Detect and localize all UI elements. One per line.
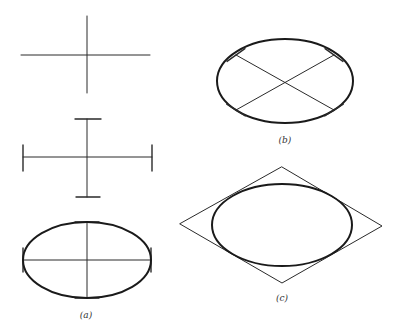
ellipse-construction-figure: (a) (b) (c) [0,0,399,336]
panel-a: (a) [21,16,152,320]
panel-c: (c) [180,167,382,303]
panel-b-label: (b) [279,135,292,145]
panel-b: (b) [217,39,353,145]
panel-a-label: (a) [80,310,93,320]
figure-svg: (a) (b) (c) [0,0,399,336]
step-3-ellipse-on-axes [23,222,151,298]
step-1-axes-cross [21,16,150,93]
tangent-mark [325,49,343,62]
panel-c-label: (c) [276,293,289,303]
step-2-axes-with-end-marks [23,119,152,197]
tangent-mark [227,49,245,62]
inscribed-ellipse [212,184,352,266]
